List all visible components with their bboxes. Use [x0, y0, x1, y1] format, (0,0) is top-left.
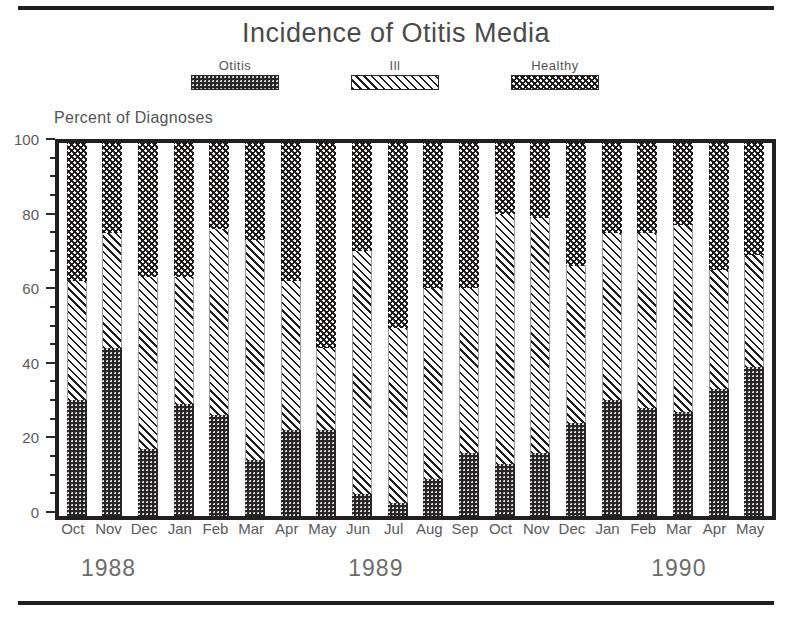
bar-segment-otitis: [245, 460, 265, 516]
bar-segment-healthy: [316, 143, 336, 348]
bar-segment-ill: [602, 233, 622, 401]
year-label: 1988: [81, 555, 136, 582]
bar-segment-healthy: [459, 143, 479, 288]
bar-jan-3: [174, 143, 194, 516]
bar-segment-ill: [637, 233, 657, 408]
bar-segment-otitis: [67, 400, 87, 516]
bar-apr-6: [281, 143, 301, 516]
y-axis: 020406080100: [0, 139, 55, 512]
y-tick-label: 20: [22, 429, 39, 446]
legend-label: Healthy: [490, 58, 620, 73]
x-tick-label: Jan: [168, 520, 192, 537]
bar-segment-ill: [709, 270, 729, 389]
bar-may-7: [316, 143, 336, 516]
bar-segment-otitis: [102, 348, 122, 516]
year-label: 1989: [348, 555, 403, 582]
bar-oct-12: [495, 143, 515, 516]
bar-segment-otitis: [209, 415, 229, 516]
plot-area: [55, 139, 776, 520]
x-tick-label: Jan: [595, 520, 619, 537]
y-tick-major: [46, 287, 55, 289]
bottom-rule: [18, 601, 774, 605]
x-tick-label: Apr: [703, 520, 726, 537]
bar-segment-healthy: [352, 143, 372, 251]
bar-segment-healthy: [637, 143, 657, 233]
bar-jul-9: [388, 143, 408, 516]
bar-segment-healthy: [495, 143, 515, 214]
bar-segment-ill: [495, 214, 515, 464]
top-rule: [18, 6, 774, 10]
bar-segment-ill: [245, 240, 265, 460]
bar-segment-otitis: [388, 503, 408, 516]
y-tick-label: 60: [22, 280, 39, 297]
bar-segment-healthy: [281, 143, 301, 281]
bar-segment-otitis: [709, 389, 729, 516]
x-tick-label: Feb: [630, 520, 656, 537]
y-tick-major: [46, 138, 55, 140]
x-tick-label: Jun: [346, 520, 370, 537]
bar-segment-healthy: [102, 143, 122, 233]
x-tick-label: May: [308, 520, 336, 537]
year-label: 1990: [651, 555, 706, 582]
bar-apr-18: [709, 143, 729, 516]
year-group-labels: 198819891990: [55, 555, 768, 585]
bar-segment-healthy: [67, 143, 87, 281]
bar-segment-otitis: [602, 400, 622, 516]
bar-segment-ill: [138, 277, 158, 449]
bar-segment-healthy: [602, 143, 622, 233]
bar-segment-otitis: [566, 423, 586, 516]
bar-segment-otitis: [530, 453, 550, 516]
bar-segment-otitis: [352, 494, 372, 516]
bar-dec-2: [138, 143, 158, 516]
page-title: Incidence of Otitis Media: [0, 18, 792, 49]
legend-item-otitis: Otitis: [170, 58, 300, 90]
bar-mar-5: [245, 143, 265, 516]
bar-segment-otitis: [495, 464, 515, 516]
bar-segment-ill: [530, 218, 550, 453]
x-tick-label: Nov: [95, 520, 122, 537]
x-tick-label: Mar: [238, 520, 264, 537]
bar-segment-healthy: [138, 143, 158, 277]
x-tick-label: Oct: [489, 520, 512, 537]
bar-segment-ill: [102, 233, 122, 349]
bar-segment-healthy: [709, 143, 729, 270]
bar-sep-11: [459, 143, 479, 516]
bar-jan-15: [602, 143, 622, 516]
bar-dec-14: [566, 143, 586, 516]
bar-nov-13: [530, 143, 550, 516]
x-tick-label: Dec: [559, 520, 586, 537]
bar-segment-otitis: [673, 412, 693, 516]
y-tick-label: 80: [22, 205, 39, 222]
bar-segment-otitis: [281, 430, 301, 516]
bar-segment-ill: [566, 266, 586, 423]
bar-segment-ill: [281, 281, 301, 430]
bar-segment-healthy: [388, 143, 408, 328]
bar-feb-4: [209, 143, 229, 516]
bar-may-19: [744, 143, 764, 516]
x-tick-label: Oct: [61, 520, 84, 537]
bar-segment-healthy: [245, 143, 265, 240]
bar-segment-ill: [209, 229, 229, 416]
y-axis-title: Percent of Diagnoses: [54, 109, 213, 127]
legend-label: Ill: [330, 58, 460, 73]
y-tick-major: [46, 436, 55, 438]
y-tick-label: 100: [14, 131, 39, 148]
bar-segment-healthy: [209, 143, 229, 229]
chart-legend: OtitisIllHealthy: [170, 58, 620, 90]
bar-segment-otitis: [423, 479, 443, 516]
bar-jun-8: [352, 143, 372, 516]
bar-aug-10: [423, 143, 443, 516]
x-tick-label: Nov: [523, 520, 550, 537]
x-axis-labels: OctNovDecJanFebMarAprMayJunJulAugSepOctN…: [55, 520, 768, 542]
bar-segment-ill: [459, 288, 479, 452]
bar-segment-otitis: [138, 449, 158, 516]
bar-mar-17: [673, 143, 693, 516]
bar-segment-ill: [352, 251, 372, 493]
bars-layer: [59, 143, 772, 516]
bar-segment-healthy: [174, 143, 194, 277]
bar-segment-ill: [423, 288, 443, 478]
bar-segment-healthy: [530, 143, 550, 218]
bar-segment-ill: [316, 348, 336, 430]
bar-segment-ill: [67, 281, 87, 400]
bar-segment-otitis: [459, 453, 479, 516]
